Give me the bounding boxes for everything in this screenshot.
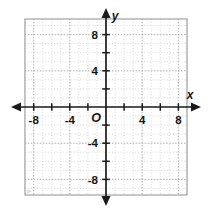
x-tick-label--4: -4 (65, 114, 76, 126)
x-axis-left-arrow-icon (11, 103, 21, 112)
origin-label: O (91, 111, 101, 125)
y-axis-down-arrow-icon (102, 196, 111, 206)
x-axis-label: x (186, 88, 195, 102)
y-axis-label: y (111, 9, 120, 23)
y-tick-label--8: -8 (88, 174, 99, 186)
x-tick-label--8: -8 (29, 114, 40, 126)
coordinate-plane-canvas: -8 -4 4 8 x 8 4 -4 (0, 0, 209, 214)
y-axis-up-arrow-icon (102, 8, 111, 18)
y-tick-label-4: 4 (92, 65, 99, 77)
x-tick-label-8: 8 (175, 114, 182, 126)
y-tick-label-8: 8 (92, 29, 99, 41)
x-tick-label-4: 4 (139, 114, 146, 126)
coordinate-plane-figure: -8 -4 4 8 x 8 4 -4 (0, 0, 209, 214)
y-tick-label--4: -4 (88, 137, 99, 149)
x-axis-right-arrow-icon (191, 103, 201, 112)
